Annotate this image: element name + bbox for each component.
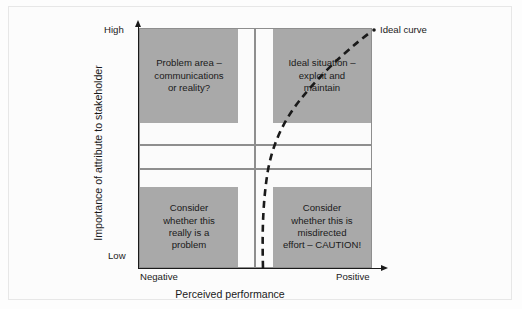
quadrant-bottom-left: Consider whether this really is a proble…: [140, 187, 238, 267]
y-axis-low-label: Low: [108, 250, 126, 261]
y-axis-arrow-icon: [135, 20, 141, 27]
ideal-curve-label: Ideal curve: [380, 24, 427, 35]
figure-page: Problem area – communications or reality…: [0, 0, 522, 309]
x-axis-line: [138, 268, 383, 269]
quadrant-bottom-right-line-3: misdirected: [283, 227, 361, 239]
cell-outline-mid-right: [255, 145, 372, 169]
quadrant-top-left-line-1: Problem area –: [154, 57, 223, 69]
quadrant-top-left: Problem area – communications or reality…: [140, 29, 238, 123]
x-axis-arrow-icon: [381, 265, 388, 271]
y-axis-line: [138, 26, 139, 269]
quadrant-top-left-line-2: communications: [154, 70, 223, 82]
x-axis-title: Perceived performance: [0, 288, 460, 300]
quadrant-top-right-line-1: Ideal situation –: [288, 57, 355, 69]
quadrant-top-left-line-3: or reality?: [154, 82, 223, 94]
quadrant-top-right: Ideal situation – exploit and maintain: [273, 29, 371, 123]
y-axis-high-label: High: [104, 24, 124, 35]
x-axis-positive-label: Positive: [336, 271, 370, 282]
quadrant-bottom-right-line-1: Consider: [283, 202, 361, 214]
quadrant-top-right-line-2: exploit and: [288, 70, 355, 82]
quadrant-bottom-left-line-4: problem: [163, 239, 215, 251]
quadrant-top-right-line-3: maintain: [288, 82, 355, 94]
quadrant-bottom-left-line-1: Consider: [163, 202, 215, 214]
cell-outline-mid-left: [139, 145, 255, 169]
plot-area: Problem area – communications or reality…: [139, 28, 372, 268]
quadrant-bottom-left-line-2: whether this: [163, 215, 215, 227]
x-axis-negative-label: Negative: [140, 271, 178, 282]
y-axis-title: Importance of attribute to stakeholder: [92, 33, 104, 273]
quadrant-bottom-right: Consider whether this is misdirected eff…: [273, 187, 371, 267]
quadrant-bottom-right-line-2: whether this is: [283, 215, 361, 227]
quadrant-bottom-right-line-4: effort – CAUTION!: [283, 239, 361, 251]
quadrant-bottom-left-line-3: really is a: [163, 227, 215, 239]
